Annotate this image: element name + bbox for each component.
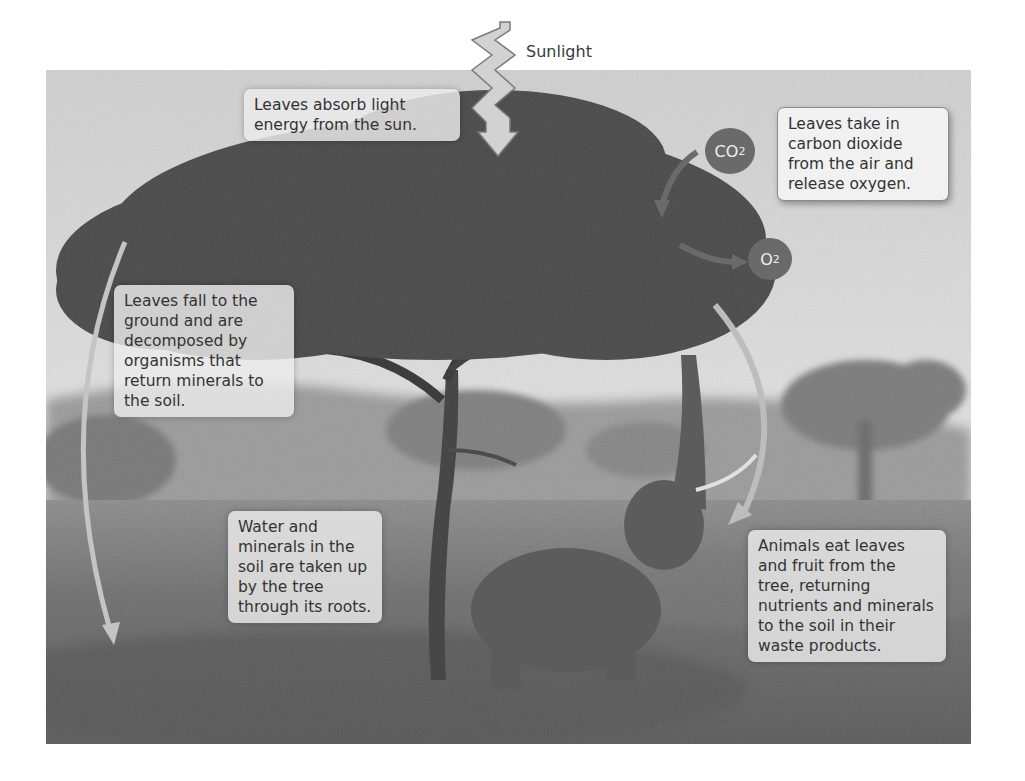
co2-sub: 2: [738, 145, 745, 158]
gas-exchange-label: Leaves take in carbon dioxide from the a…: [777, 107, 949, 201]
absorb-light-label: Leaves absorb light energy from the sun.: [244, 89, 460, 141]
sunlight-label: Sunlight: [526, 42, 592, 61]
co2-base: CO: [715, 142, 739, 161]
animals-label: Animals eat leaves and fruit from the tr…: [748, 530, 946, 662]
co2-bubble: CO2: [705, 128, 755, 174]
decompose-label: Leaves fall to the ground and are decomp…: [114, 285, 294, 417]
o2-base: O: [760, 250, 773, 269]
o2-bubble: O2: [748, 238, 792, 280]
o2-sub: 2: [773, 253, 780, 266]
roots-label: Water and minerals in the soil are taken…: [228, 511, 382, 623]
